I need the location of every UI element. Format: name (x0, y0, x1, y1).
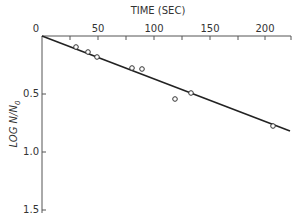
x-axis-title: TIME (SEC) (130, 5, 186, 16)
chart-canvas: TIME (SEC) 0 50 100 150 200 0.5 1.0 1.5 … (0, 0, 301, 222)
y-tick-label-1.0: 1.0 (23, 146, 39, 157)
x-tick-label-150: 150 (200, 23, 219, 34)
svg-text:LOG N/N0: LOG N/N0 (8, 100, 22, 147)
x-tick-label-0: 0 (33, 23, 39, 34)
data-point (86, 50, 91, 55)
data-point (271, 124, 276, 129)
y-tick-label-0.5: 0.5 (23, 88, 39, 99)
y-axis-title: LOG N/N0 (8, 100, 22, 147)
y-axis-title-subscript: 0 (14, 100, 22, 105)
data-point (189, 91, 194, 96)
y-axis-title-main: LOG N/N (8, 105, 19, 148)
data-point (95, 55, 100, 60)
data-point (74, 45, 79, 50)
fit-line (42, 36, 290, 131)
x-tick-label-50: 50 (92, 23, 105, 34)
y-tick-label-1.5: 1.5 (23, 204, 39, 215)
x-tick-label-100: 100 (144, 23, 163, 34)
data-point (130, 66, 135, 71)
data-point (173, 97, 178, 102)
data-point (140, 67, 145, 72)
y-axis (42, 36, 46, 213)
x-tick-label-200: 200 (255, 23, 274, 34)
x-axis (42, 36, 291, 40)
